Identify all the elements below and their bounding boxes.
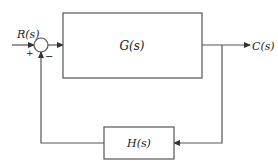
output-label: C(s) [252, 40, 275, 53]
input-label: R(s) [16, 28, 40, 41]
forward-block-label: G(s) [119, 39, 144, 53]
diagram-svg: R(s) + − G(s) C(s) H(s) [0, 0, 278, 168]
block-diagram: R(s) + − G(s) C(s) H(s) [0, 0, 278, 168]
minus-sign: − [45, 51, 53, 62]
feedback-block-label: H(s) [126, 137, 151, 150]
plus-sign: + [26, 48, 34, 58]
